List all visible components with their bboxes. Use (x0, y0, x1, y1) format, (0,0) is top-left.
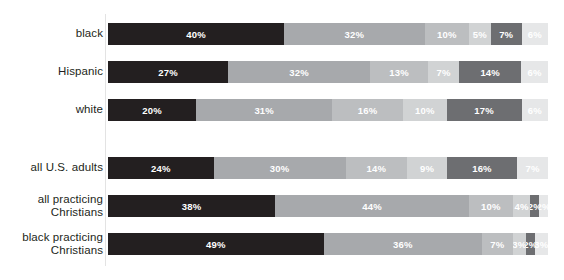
bar-segment: 5% (469, 23, 491, 45)
chart-row: black practicing Christians49%36%7%3%2%3… (0, 233, 564, 255)
bar-segment: 2% (526, 233, 535, 255)
bar-segment: 36% (324, 233, 482, 255)
stacked-bar-chart: black40%32%10%5%7%6%Hispanic27%32%13%7%1… (0, 0, 564, 280)
bar-segment: 49% (108, 233, 324, 255)
bar-segment: 6% (522, 99, 548, 121)
bar-segment: 16% (447, 157, 517, 179)
stacked-bar: 40%32%10%5%7%6% (108, 23, 548, 45)
bar-segment: 24% (108, 157, 214, 179)
row-label: all practicing Christians (0, 193, 103, 218)
stacked-bar: 27%32%13%7%14%6% (108, 61, 548, 83)
bar-segment: 17% (447, 99, 522, 121)
stacked-bar: 38%44%10%4%2%2% (108, 195, 548, 217)
bar-segment: 4% (513, 195, 531, 217)
chart-row: black40%32%10%5%7%6% (0, 23, 564, 45)
bar-segment: 14% (346, 157, 408, 179)
bar-segment: 30% (214, 157, 346, 179)
bar-segment: 2% (539, 195, 548, 217)
bar-segment: 14% (459, 61, 521, 83)
bar-segment: 10% (469, 195, 513, 217)
row-label: Hispanic (0, 65, 103, 78)
bar-segment: 32% (284, 23, 425, 45)
stacked-bar: 49%36%7%3%2%3% (108, 233, 548, 255)
chart-row: white20%31%16%10%17%6% (0, 99, 564, 121)
bar-segment: 7% (428, 61, 459, 83)
bar-segment: 7% (482, 233, 513, 255)
bar-segment: 3% (513, 233, 526, 255)
bar-segment: 20% (108, 99, 196, 121)
bar-segment: 9% (407, 157, 447, 179)
bar-segment: 3% (535, 233, 548, 255)
chart-row: Hispanic27%32%13%7%14%6% (0, 61, 564, 83)
row-label: white (0, 103, 103, 116)
bar-segment: 2% (530, 195, 539, 217)
bar-segment: 16% (332, 99, 402, 121)
row-label: black (0, 27, 103, 40)
bar-segment: 31% (196, 99, 332, 121)
bar-segment: 6% (521, 61, 548, 83)
bar-segment: 7% (517, 157, 548, 179)
axis-baseline (105, 14, 106, 266)
bar-segment: 38% (108, 195, 275, 217)
bar-segment: 6% (522, 23, 548, 45)
chart-row: all practicing Christians38%44%10%4%2%2% (0, 195, 564, 217)
row-label: black practicing Christians (0, 231, 103, 256)
bar-segment: 10% (403, 99, 447, 121)
bar-segment: 40% (108, 23, 284, 45)
bar-segment: 7% (491, 23, 522, 45)
bar-segment: 44% (275, 195, 469, 217)
bar-segment: 32% (228, 61, 370, 83)
row-label: all U.S. adults (0, 161, 103, 174)
bar-segment: 27% (108, 61, 228, 83)
bar-segment: 13% (370, 61, 428, 83)
stacked-bar: 24%30%14%9%16%7% (108, 157, 548, 179)
chart-row: all U.S. adults24%30%14%9%16%7% (0, 157, 564, 179)
bar-segment: 10% (425, 23, 469, 45)
stacked-bar: 20%31%16%10%17%6% (108, 99, 548, 121)
